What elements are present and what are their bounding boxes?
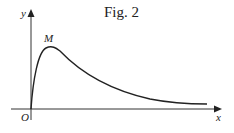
x-axis-label: x: [215, 111, 221, 123]
x-axis: [11, 106, 222, 113]
figure: Fig. 2 y x O M: [0, 0, 234, 133]
curve: [31, 47, 207, 109]
origin-label: O: [21, 111, 29, 123]
y-axis-arrow-icon: [28, 9, 35, 17]
y-axis-label: y: [20, 7, 26, 19]
figure-title: Fig. 2: [104, 4, 139, 20]
max-point-label: M: [43, 32, 54, 44]
